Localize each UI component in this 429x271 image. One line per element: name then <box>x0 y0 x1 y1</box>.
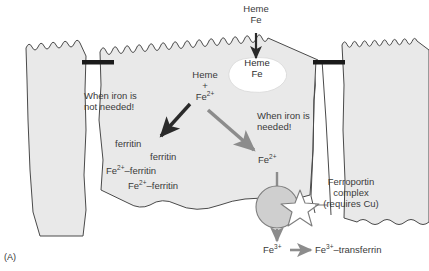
iron-absorption-figure: HemeFe HemeFe Heme + Fe2+ When iron isno… <box>0 0 429 271</box>
ferritin-label-1: ferritin <box>115 139 141 150</box>
iron-needed-label: When iron isneeded! <box>257 111 310 133</box>
iron-not-needed-label: When iron isnot needed! <box>84 91 137 113</box>
cytosolic-iron-label: Fe2+ <box>258 155 276 166</box>
ferric-iron-label: Fe3+ <box>263 245 281 256</box>
tight-junction-left <box>82 60 114 65</box>
panel-label: (A) <box>4 252 16 262</box>
iron-ferritin-label-1: Fe2+–ferritin <box>106 166 156 177</box>
ferric-transferrin-label: Fe3+–transferrin <box>315 245 382 256</box>
heme-fe-vesicle-label: HemeFe <box>226 58 288 80</box>
ferritin-label-2: ferritin <box>150 152 176 163</box>
iron-ferritin-label-2: Fe2+–ferritin <box>128 181 178 192</box>
heme-fe-source-label: HemeFe <box>218 4 294 26</box>
enterocyte-cell-left <box>26 40 86 236</box>
tight-junction-right <box>313 60 345 65</box>
diagram-canvas <box>0 0 429 271</box>
ferroportin-complex-label: Ferroportincomplex(requires Cu) <box>305 177 397 210</box>
